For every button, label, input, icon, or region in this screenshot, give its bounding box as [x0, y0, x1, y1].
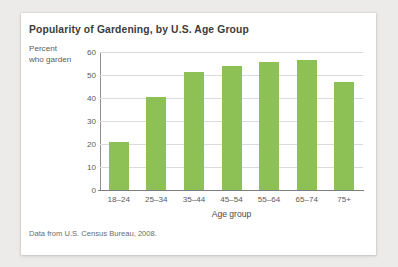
- source-note: Data from U.S. Census Bureau, 2008.: [29, 229, 157, 238]
- x-axis-line: [98, 190, 364, 191]
- bar: [259, 62, 279, 190]
- x-axis-title: Age group: [100, 209, 363, 219]
- bar: [297, 60, 317, 190]
- figure-card: Popularity of Gardening, by U.S. Age Gro…: [21, 13, 376, 255]
- y-tick-label: 0: [91, 186, 96, 195]
- chart-title: Popularity of Gardening, by U.S. Age Gro…: [29, 24, 249, 35]
- y-tick-label: 20: [87, 140, 96, 149]
- y-tick-label: 30: [87, 117, 96, 126]
- y-tick-label: 40: [87, 94, 96, 103]
- y-tick-label: 10: [87, 163, 96, 172]
- x-tick-label: 55–64: [258, 195, 281, 204]
- y-tick-label: 60: [87, 48, 96, 57]
- x-tick-label: 25–34: [145, 195, 168, 204]
- bar: [184, 72, 204, 190]
- y-tick-label: 50: [87, 71, 96, 80]
- x-tick-label: 18–24: [108, 195, 131, 204]
- bar: [146, 97, 166, 190]
- y-axis-title-line-2: who garden: [29, 55, 89, 66]
- x-tick-label: 45–54: [220, 195, 243, 204]
- gridline: [100, 52, 363, 53]
- bar: [222, 66, 242, 190]
- bar: [334, 82, 354, 190]
- x-tick-label: 75+: [337, 195, 351, 204]
- plot-area: 0102030405060 18–2425–3435–4445–5455–646…: [100, 52, 363, 190]
- bar: [109, 142, 129, 190]
- x-tick-label: 35–44: [183, 195, 206, 204]
- y-axis-title-line-1: Percent: [29, 44, 89, 55]
- x-tick-label: 65–74: [295, 195, 318, 204]
- y-axis-title: Percent who garden: [29, 44, 89, 65]
